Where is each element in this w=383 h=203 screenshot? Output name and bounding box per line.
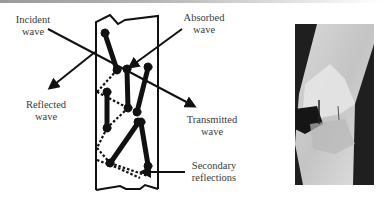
secondary-reflections-label: Secondary reflections [181,160,247,184]
reflected-wave-label: Reflected wave [18,99,74,123]
absorbed-wave-label: Absorbed wave [176,12,232,36]
incident-transmitted-arrow [48,29,194,106]
specimen-photo [295,24,374,185]
incident-wave-label: Incident wave [8,14,58,38]
pins [101,29,152,170]
reflected-arrow [50,52,95,88]
absorbed-arrow [130,29,182,67]
transmitted-wave-label: Transmitted wave [178,114,246,138]
